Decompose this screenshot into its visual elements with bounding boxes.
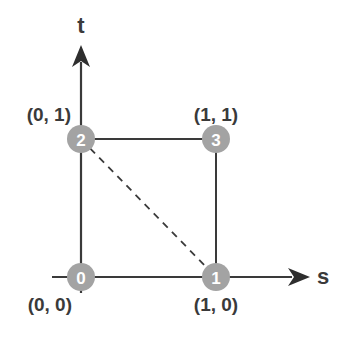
node-0-label: 0 (76, 269, 85, 288)
node-3: 3 (202, 125, 230, 153)
coord-label-1-0: (1, 0) (194, 294, 238, 315)
edge-2-1-dashed (81, 139, 216, 277)
t-axis-label: t (77, 13, 85, 38)
node-1-label: 1 (211, 269, 220, 288)
coord-label-0-0: (0, 0) (28, 294, 72, 315)
coord-label-1-1: (1, 1) (194, 104, 238, 125)
s-axis-label: s (317, 264, 329, 289)
node-2: 2 (67, 125, 95, 153)
coord-label-0-1: (0, 1) (27, 104, 71, 125)
uv-square-diagram: 0 1 2 3 t s (0, 1) (1, 1) (0, 0) (1, 0) (0, 0, 346, 345)
node-1: 1 (202, 263, 230, 291)
node-3-label: 3 (211, 131, 220, 150)
t-axis (72, 45, 90, 293)
node-2-label: 2 (76, 131, 85, 150)
node-0: 0 (67, 263, 95, 291)
diagram-canvas: 0 1 2 3 t s (0, 1) (1, 1) (0, 0) (1, 0) (0, 0, 346, 345)
